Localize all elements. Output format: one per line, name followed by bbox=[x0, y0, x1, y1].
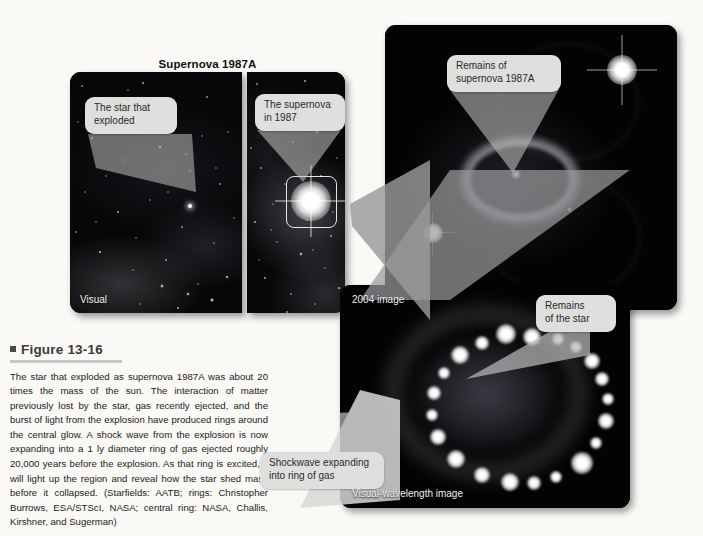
callout-shockwave-expanding: Shockwave expanding into ring of gas bbox=[260, 452, 384, 489]
square-bullet-icon bbox=[10, 346, 16, 352]
ring-knot bbox=[550, 471, 562, 483]
callout-remains-of-star: Remains of the star bbox=[536, 295, 616, 332]
ring-knot bbox=[598, 413, 614, 429]
ring-knot bbox=[595, 372, 609, 386]
ring-knot bbox=[571, 452, 593, 474]
callout-remnants-supernova: Remains of supernova 1987A bbox=[447, 55, 561, 92]
field-star-upper-right bbox=[607, 55, 637, 85]
callout-supernova-1987: The supernova in 1987 bbox=[255, 94, 345, 131]
ring-knot bbox=[447, 450, 465, 468]
ring-knot bbox=[602, 393, 614, 405]
panel-label-visual: Visual bbox=[80, 294, 107, 305]
callout-star-exploded: The star that exploded bbox=[85, 97, 177, 134]
ring-knot bbox=[527, 476, 541, 490]
panel-label-2004-image: 2004 image bbox=[352, 294, 404, 305]
panel-label-visual-wavelength: Visual-wavelength image bbox=[352, 488, 463, 499]
callout-wedge-shockwave bbox=[340, 389, 416, 455]
figure-container: Supernova 1987A The star that exploded V… bbox=[0, 0, 703, 536]
ring-knot bbox=[430, 429, 446, 445]
panel-progenitor-starfield: The star that exploded Visual bbox=[70, 72, 242, 313]
caption-rule bbox=[10, 360, 122, 363]
figure-title: Supernova 1987A bbox=[70, 58, 345, 70]
caption-heading: Figure 13-16 bbox=[10, 342, 268, 360]
caption-heading-text: Figure 13-16 bbox=[21, 342, 103, 357]
ring-knot bbox=[427, 386, 441, 400]
callout-wedge-remnants bbox=[447, 89, 567, 177]
ring-knot bbox=[474, 467, 490, 483]
callout-wedge-supernova-1987 bbox=[257, 130, 345, 186]
callout-wedge-star-exploded bbox=[88, 134, 218, 214]
ring-knot bbox=[426, 409, 438, 421]
ring-knot bbox=[501, 473, 519, 491]
ring-knot bbox=[590, 437, 602, 449]
